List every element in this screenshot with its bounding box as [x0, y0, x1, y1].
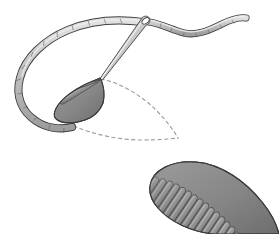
illustration-canvas [0, 0, 279, 234]
embroidery-illustration [0, 0, 279, 234]
